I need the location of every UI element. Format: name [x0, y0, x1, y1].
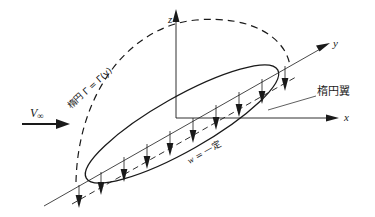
downwash-arrow: [144, 144, 151, 169]
y-axis: [44, 43, 330, 206]
downwash-arrow: [190, 118, 197, 143]
wing-callout-label: 楕円翼: [317, 86, 350, 97]
leader-line-wing: [268, 96, 316, 110]
downwash-arrow: [213, 105, 220, 130]
freestream-subscript: ∞: [37, 111, 43, 121]
elliptic-circulation-curve: [76, 19, 290, 182]
downwash-arrow: [259, 79, 266, 104]
downwash-arrow: [282, 66, 289, 91]
x-axis: [176, 115, 339, 122]
downwash-arrow: [98, 172, 105, 195]
z-axis: [173, 9, 180, 118]
y-axis-label: y: [333, 38, 338, 49]
aerodynamics-diagram: [0, 0, 375, 217]
freestream-label: V∞: [30, 107, 44, 121]
z-axis-label: z: [168, 14, 172, 25]
downwash-arrow: [167, 131, 174, 156]
downwash-arrow: [236, 92, 243, 117]
downwash-arrows: [76, 66, 289, 208]
downwash-arrow: [76, 185, 83, 208]
x-axis-label: x: [344, 112, 349, 123]
